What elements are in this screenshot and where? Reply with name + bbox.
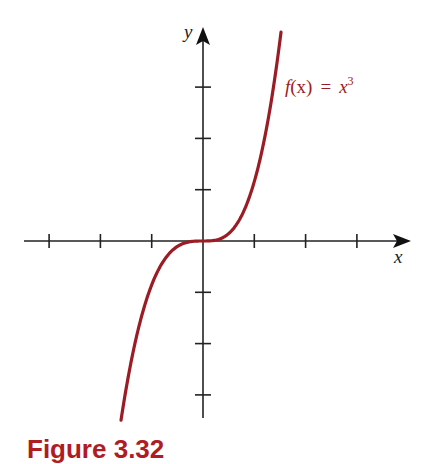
cubic-curve [121, 32, 281, 420]
figure-caption: Figure 3.32 [27, 436, 164, 462]
y-axis-label: y [182, 21, 193, 42]
x-axis-label: x [393, 246, 403, 267]
function-label: f(x)=x3 [285, 74, 354, 98]
